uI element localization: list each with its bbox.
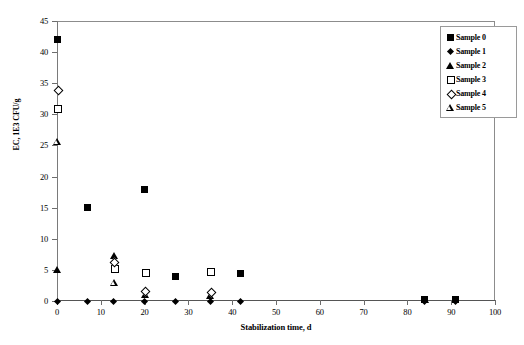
filled-square-marker-icon (84, 204, 91, 211)
open-diamond-marker-icon (53, 85, 63, 95)
x-axis-tick-label: 0 (42, 308, 72, 317)
x-axis-title: Stabilization time, d (57, 322, 495, 332)
open-triangle-marker-icon (53, 138, 61, 145)
scatter-chart-figure: 051015202530354045 010203040506070809010… (0, 0, 524, 345)
filled-square-marker-icon (237, 270, 244, 277)
y-axis-tick-label: 25 (22, 141, 48, 150)
plot-data-area (57, 21, 495, 301)
legend-item-sample-2[interactable]: Sample 2 (444, 58, 514, 72)
y-axis-tick-label: 20 (22, 173, 48, 182)
y-axis-tick-label: 45 (22, 17, 48, 26)
x-axis-tick (495, 300, 496, 305)
filled-diamond-marker-icon (110, 297, 117, 304)
x-axis-tick-label: 100 (480, 308, 510, 317)
x-axis-tick-label: 40 (217, 308, 247, 317)
legend-item-sample-5[interactable]: Sample 5 (444, 100, 514, 114)
open-square-marker-icon (444, 73, 456, 85)
legend-item-label: Sample 1 (456, 47, 486, 56)
legend-item-label: Sample 3 (456, 75, 486, 84)
filled-diamond-marker-icon (141, 297, 148, 304)
filled-diamond-marker-icon (84, 297, 91, 304)
legend-item-sample-3[interactable]: Sample 3 (444, 72, 514, 86)
x-axis-tick-label: 50 (261, 308, 291, 317)
chart-legend: Sample 0Sample 1Sample 2Sample 3Sample 4… (440, 26, 517, 118)
filled-diamond-marker-icon (237, 297, 244, 304)
legend-item-label: Sample 4 (456, 89, 486, 98)
legend-item-label: Sample 5 (456, 103, 486, 112)
y-axis-tick-label: 10 (22, 235, 48, 244)
filled-triangle-marker-icon (421, 296, 429, 303)
filled-diamond-glyph-icon (446, 47, 453, 54)
x-axis-tick-label: 60 (305, 308, 335, 317)
filled-triangle-marker-icon (53, 266, 61, 273)
y-axis-tick-label: 15 (22, 204, 48, 213)
open-square-marker-icon (207, 268, 215, 276)
x-axis-tick-label: 90 (436, 308, 466, 317)
filled-square-marker-icon (172, 273, 179, 280)
filled-triangle-glyph-icon (446, 62, 454, 69)
y-axis-tick-label: 30 (22, 110, 48, 119)
x-axis-tick-label: 20 (130, 308, 160, 317)
open-triangle-marker-icon (444, 101, 456, 113)
open-triangle-marker-icon (110, 279, 118, 286)
x-axis-tick-label: 80 (392, 308, 422, 317)
legend-item-sample-4[interactable]: Sample 4 (444, 86, 514, 100)
legend-item-label: Sample 2 (456, 61, 486, 70)
legend-item-sample-0[interactable]: Sample 0 (444, 30, 514, 44)
legend-item-label: Sample 0 (456, 33, 486, 42)
filled-triangle-marker-icon (444, 59, 456, 71)
y-axis-tick-label: 0 (22, 297, 48, 306)
filled-square-glyph-icon (447, 34, 454, 41)
legend-item-sample-1[interactable]: Sample 1 (444, 44, 514, 58)
filled-square-marker-icon (54, 36, 61, 43)
x-axis-tick-label: 10 (86, 308, 116, 317)
x-axis-tick-label: 30 (173, 308, 203, 317)
y-axis-tick-label: 40 (22, 48, 48, 57)
filled-square-marker-icon (141, 186, 148, 193)
open-diamond-glyph-icon (446, 89, 456, 99)
filled-diamond-marker-icon (53, 297, 60, 304)
x-axis-tick-label: 70 (349, 308, 379, 317)
open-square-glyph-icon (447, 76, 455, 84)
open-triangle-glyph-icon (446, 104, 454, 111)
filled-diamond-marker-icon (172, 297, 179, 304)
open-square-marker-icon (54, 105, 62, 113)
open-square-marker-icon (142, 269, 150, 277)
filled-diamond-marker-icon (444, 45, 456, 57)
filled-square-marker-icon (444, 31, 456, 43)
open-diamond-marker-icon (444, 87, 456, 99)
y-axis-tick-label: 35 (22, 79, 48, 88)
y-axis-tick-label: 5 (22, 266, 48, 275)
y-axis-title: EC, 1E3 CFU/g (12, 65, 21, 185)
